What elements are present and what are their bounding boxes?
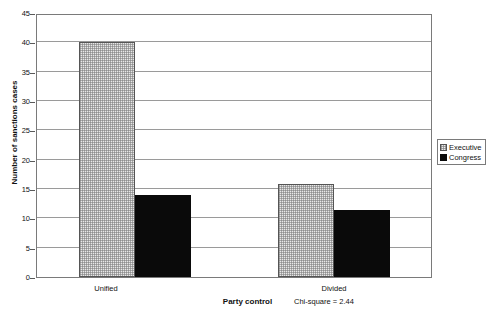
y-tick-mark bbox=[30, 14, 35, 15]
bar-chart: 051015202530354045 Number of sanctions c… bbox=[0, 0, 495, 317]
y-tick-mark bbox=[30, 249, 35, 250]
legend-item-congress: Congress bbox=[440, 152, 482, 162]
y-tick-mark bbox=[30, 161, 35, 162]
y-tick-mark bbox=[30, 102, 35, 103]
plot-area bbox=[36, 14, 432, 278]
y-tick-mark bbox=[30, 43, 35, 44]
x-axis-title: Party control bbox=[0, 297, 495, 306]
y-tick-mark bbox=[30, 278, 35, 279]
y-tick-label: 5 bbox=[4, 245, 30, 253]
legend-label: Executive bbox=[449, 143, 482, 152]
legend-item-executive: Executive bbox=[440, 142, 482, 152]
legend-swatch-congress-icon bbox=[440, 154, 447, 161]
y-tick-mark bbox=[30, 190, 35, 191]
y-tick-label: 0 bbox=[4, 274, 30, 282]
bar-unified-executive bbox=[79, 42, 135, 277]
bar-divided-executive bbox=[278, 184, 334, 277]
legend-swatch-executive-icon bbox=[440, 144, 447, 151]
y-tick-mark bbox=[30, 131, 35, 132]
legend-label: Congress bbox=[449, 153, 481, 162]
legend: ExecutiveCongress bbox=[437, 139, 486, 165]
y-tick-mark bbox=[30, 73, 35, 74]
x-category-label-divided: Divided bbox=[294, 284, 374, 293]
bar-divided-congress bbox=[334, 210, 390, 277]
y-axis-title: Number of sanctions cases bbox=[10, 33, 19, 233]
x-category-label-unified: Unified bbox=[66, 284, 146, 293]
y-tick-mark bbox=[30, 219, 35, 220]
y-tick-label: 45 bbox=[4, 10, 30, 18]
bar-unified-congress bbox=[135, 195, 191, 277]
